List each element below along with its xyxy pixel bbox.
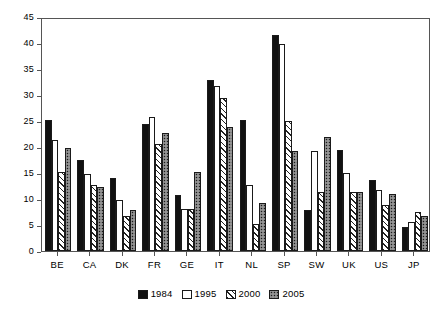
- y-axis-tick-label: 10: [24, 194, 34, 204]
- x-axis-tick-label: CA: [73, 259, 105, 270]
- x-axis-tick-label: GE: [171, 259, 203, 270]
- bar-fr-1984: [142, 124, 149, 251]
- bar-dk-2000: [123, 216, 130, 251]
- x-axis-group-dk: DK: [106, 252, 138, 278]
- bar-ge-2000: [188, 209, 195, 251]
- x-axis-group-ca: CA: [73, 252, 105, 278]
- y-axis-tick-label: 20: [24, 142, 34, 152]
- legend-swatch-2005: [269, 290, 279, 299]
- bar-ge-1995: [181, 209, 188, 251]
- x-axis-group-jp: JP: [398, 252, 430, 278]
- bar-it-2005: [227, 127, 234, 251]
- x-axis-tick-mark: [154, 252, 155, 256]
- y-axis-tick-label: 45: [24, 12, 34, 22]
- x-axis-tick-label: BE: [41, 259, 73, 270]
- bar-ca-2000: [91, 185, 98, 251]
- legend-label-1995: 1995: [195, 289, 217, 299]
- x-axis-group-be: BE: [41, 252, 73, 278]
- bar-us-1995: [376, 190, 383, 251]
- bar-nl-2005: [259, 203, 266, 251]
- bar-chart: 051015202530354045 BECADKFRGEITNLSPSWUKU…: [0, 0, 442, 321]
- x-axis-tick-label: US: [365, 259, 397, 270]
- bar-jp-2000: [415, 212, 422, 251]
- x-axis-tick-label: NL: [236, 259, 268, 270]
- legend-swatch-2000: [226, 290, 236, 299]
- bar-sp-2000: [285, 121, 292, 251]
- bar-nl-1995: [246, 185, 253, 251]
- bar-dk-1984: [110, 178, 117, 251]
- legend-item-1995[interactable]: 1995: [182, 289, 217, 299]
- x-axis-tick-mark: [316, 252, 317, 256]
- bar-uk-1995: [343, 173, 350, 251]
- y-axis-tick-label: 5: [29, 220, 34, 230]
- bar-sw-2000: [318, 192, 325, 251]
- x-axis-group-ge: GE: [171, 252, 203, 278]
- x-axis-tick-label: FR: [138, 259, 170, 270]
- plot-area: [42, 19, 429, 251]
- legend-item-1984[interactable]: 1984: [138, 289, 173, 299]
- y-axis-tick-label: 35: [24, 64, 34, 74]
- x-axis-tick-mark: [122, 252, 123, 256]
- x-axis-group-uk: UK: [333, 252, 365, 278]
- bar-us-1984: [369, 180, 376, 251]
- bar-sp-1984: [272, 35, 279, 251]
- bar-uk-1984: [337, 150, 344, 251]
- x-axis-tick-mark: [89, 252, 90, 256]
- bar-be-1984: [45, 120, 52, 251]
- bar-fr-2000: [155, 144, 162, 251]
- legend-label-2005: 2005: [282, 289, 304, 299]
- x-axis-tick-label: DK: [106, 259, 138, 270]
- x-axis-tick-label: JP: [398, 259, 430, 270]
- bar-sp-2005: [292, 151, 299, 251]
- bar-dk-2005: [130, 210, 137, 251]
- bar-ge-1984: [175, 195, 182, 251]
- bar-us-2000: [382, 205, 389, 251]
- bar-jp-1995: [408, 222, 415, 251]
- bar-it-1995: [214, 86, 221, 251]
- legend-swatch-1984: [138, 290, 148, 299]
- x-axis-tick-mark: [219, 252, 220, 256]
- x-axis-tick-mark: [284, 252, 285, 256]
- bar-jp-2005: [421, 216, 428, 251]
- x-axis-group-sw: SW: [300, 252, 332, 278]
- x-axis-tick-mark: [381, 252, 382, 256]
- bar-nl-1984: [240, 120, 247, 251]
- bar-fr-1995: [149, 117, 156, 251]
- x-axis-group-it: IT: [203, 252, 235, 278]
- x-axis: BECADKFRGEITNLSPSWUKUSJP: [41, 252, 430, 278]
- legend-label-1984: 1984: [151, 289, 173, 299]
- bar-sw-1984: [304, 210, 311, 251]
- legend-item-2000[interactable]: 2000: [226, 289, 261, 299]
- bar-jp-1984: [402, 227, 409, 251]
- y-axis-tick-label: 25: [24, 116, 34, 126]
- plot-frame: [41, 18, 430, 252]
- bar-ge-2005: [194, 172, 201, 251]
- y-axis-tick-label: 40: [24, 38, 34, 48]
- y-axis-tick-label: 0: [29, 246, 34, 256]
- bar-uk-2000: [350, 192, 357, 251]
- chart-legend: 1984199520002005: [0, 289, 442, 299]
- bar-be-1995: [52, 140, 59, 251]
- x-axis-group-us: US: [365, 252, 397, 278]
- bar-ca-1984: [77, 160, 84, 251]
- bar-be-2005: [65, 148, 72, 251]
- x-axis-group-fr: FR: [138, 252, 170, 278]
- x-axis-tick-mark: [413, 252, 414, 256]
- legend-swatch-1995: [182, 290, 192, 299]
- y-axis-tick-label: 15: [24, 168, 34, 178]
- x-axis-tick-mark: [251, 252, 252, 256]
- x-axis-tick-mark: [57, 252, 58, 256]
- bar-us-2005: [389, 194, 396, 251]
- x-axis-tick-label: SW: [300, 259, 332, 270]
- bar-sp-1995: [279, 44, 286, 251]
- legend-item-2005[interactable]: 2005: [269, 289, 304, 299]
- bar-it-1984: [207, 80, 214, 251]
- bar-ca-1995: [84, 174, 91, 251]
- bar-be-2000: [58, 172, 65, 251]
- bar-sw-2005: [324, 137, 331, 251]
- y-axis: 051015202530354045: [0, 18, 41, 252]
- x-axis-tick-mark: [348, 252, 349, 256]
- x-axis-tick-label: IT: [203, 259, 235, 270]
- bar-uk-2005: [357, 192, 364, 251]
- bar-it-2000: [220, 98, 227, 251]
